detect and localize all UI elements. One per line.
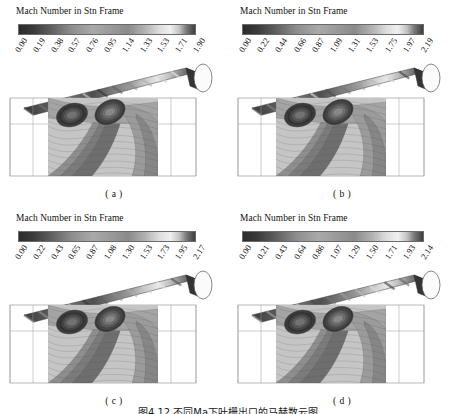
colorbar-title-d: Mach Number in Stn Frame [240,213,348,223]
colorbar-tick-a: 0.38 [48,36,65,54]
colorbar-title-a: Mach Number in Stn Frame [16,6,124,16]
mach-contour-field [48,301,158,387]
colorbar-tick-c: 1.08 [102,243,119,261]
panel-b: Mach Number in Stn Frame 0.000.220.440.6… [228,0,456,207]
flow-field-contours [228,60,456,192]
colorbar-tick-d: 2.14 [419,243,436,261]
panel-label-b: ( b ) [228,188,456,199]
colorbar-tick-b: 0.87 [309,36,326,54]
colorbar-tick-b: 2.19 [419,36,436,54]
contour-diagram-d [228,267,456,399]
colorbar-tick-c: 1.53 [137,243,154,261]
panel-label-a: ( a ) [0,188,228,199]
mach-contour-field [276,301,386,388]
mach-contour-field [276,94,386,181]
contour-diagram-c [0,267,228,399]
panel-d: Mach Number in Stn Frame 0.000.210.430.6… [228,207,456,414]
colorbar-tick-d: 0.43 [273,243,290,261]
colorbar-b [242,24,424,35]
colorbar-tick-a: 0.57 [66,36,83,54]
colorbar-tick-a: 1.90 [191,36,208,54]
colorbar-tick-b: 0.44 [273,36,290,54]
flow-field-contours [0,267,228,399]
colorbar-tick-b: 1.97 [400,36,417,54]
colorbar-tick-c: 2.17 [191,243,208,261]
colorbar-tick-d: 0.64 [291,243,308,261]
colorbar-d [242,231,424,242]
colorbar-tick-b: 0.66 [291,36,308,54]
colorbar-tick-a: 0.19 [30,36,47,54]
colorbar-title-c: Mach Number in Stn Frame [16,213,124,223]
panel-a: Mach Number in Stn Frame 0.000.190.380.5… [0,0,228,207]
flow-field-contours [228,267,456,399]
contour-diagram-a [0,60,228,192]
colorbar-tick-d: 1.50 [364,243,381,261]
colorbar-tick-d: 1.71 [382,243,399,261]
colorbar-tick-a: 0.00 [13,36,30,54]
figure-caption: 图4.12 不同Ma下叶栅出口的马赫数云图 [0,404,456,414]
colorbar-tick-b: 1.31 [346,36,363,54]
colorbar-tick-b: 1.09 [328,36,345,54]
colorbar-tick-d: 0.00 [237,243,254,261]
colorbar-tick-a: 0.95 [102,36,119,54]
colorbar-tick-a: 1.14 [119,36,136,54]
colorbar-tick-b: 0.00 [237,36,254,54]
colorbar-tick-c: 1.95 [173,243,190,261]
colorbar-tick-c: 0.65 [66,243,83,261]
colorbar-tick-a: 0.76 [84,36,101,54]
colorbar-tick-b: 0.22 [255,36,272,54]
colorbar-tick-b: 1.53 [364,36,381,54]
colorbar-tick-c: 0.00 [13,243,30,261]
figure-mach-number-contours: Mach Number in Stn Frame 0.000.190.380.5… [0,0,456,414]
colorbar-tick-c: 0.22 [30,243,47,261]
flow-field-contours [0,60,228,192]
colorbar-tick-c: 0.43 [48,243,65,261]
colorbar-title-b: Mach Number in Stn Frame [240,6,348,16]
colorbar-tick-c: 1.73 [155,243,172,261]
colorbar-tick-d: 0.21 [255,243,272,261]
colorbar-tick-c: 0.87 [84,243,101,261]
colorbar-tick-d: 1.07 [328,243,345,261]
contour-diagram-b [228,60,456,192]
colorbar-tick-d: 1.29 [346,243,363,261]
mach-contour-field [48,94,158,180]
colorbar-tick-d: 0.86 [309,243,326,261]
colorbar-tick-d: 1.93 [400,243,417,261]
colorbar-tick-a: 1.53 [155,36,172,54]
colorbar-a [18,24,196,35]
colorbar-c [18,231,196,242]
colorbar-tick-c: 1.30 [119,243,136,261]
panel-c: Mach Number in Stn Frame 0.000.220.430.6… [0,207,228,414]
colorbar-tick-b: 1.75 [382,36,399,54]
colorbar-tick-a: 1.71 [173,36,190,54]
colorbar-tick-a: 1.33 [137,36,154,54]
